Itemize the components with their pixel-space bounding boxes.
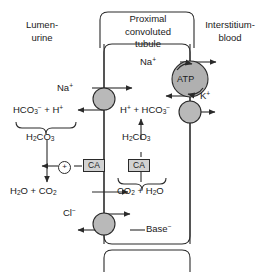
h2o-cell-o: O: [156, 185, 163, 196]
na-lumen-text: Na: [57, 82, 69, 93]
h2co3-lumen-h: H: [26, 131, 33, 142]
h2o-lumen-h: H: [10, 185, 17, 196]
h2o-cell-h: + H: [138, 185, 153, 196]
h2co3-cell-co: CO: [133, 131, 147, 142]
hco3-transporter: [179, 101, 201, 123]
interstitium-line-2: blood: [196, 33, 264, 43]
label-co2-h2o-cell: CO2 + H2O: [117, 186, 164, 197]
h2co3-lumen-sub2: 3: [51, 135, 55, 142]
label-h-hco3-cell: H+ + HCO3−: [120, 105, 170, 116]
compartment-label-tubule: Proximal convoluted tubule: [106, 14, 190, 49]
na-cell-text: Na: [140, 56, 152, 67]
label-base-cell: Base−: [146, 224, 172, 234]
co2-cell-c: CO: [117, 185, 131, 196]
label-k-blood: K+: [200, 91, 210, 101]
base-cell-charge: −: [168, 223, 172, 230]
hco3-cell-charge: −: [166, 104, 170, 111]
co2-cell-sub: 2: [131, 189, 135, 196]
diagram-canvas: Lumen- urine Proximal convoluted tubule …: [0, 0, 266, 272]
h-lumen-charge: +: [59, 104, 63, 111]
tubule-line-2: convoluted: [106, 27, 190, 37]
na-lumen-charge: +: [69, 82, 73, 89]
label-hco3-h-lumen: HCO3− + H+: [13, 105, 63, 116]
lumen-line-2: urine: [6, 33, 78, 43]
compartment-label-interstitium: Interstitium- blood: [196, 20, 264, 42]
tubule-line-3: tubule: [106, 39, 190, 49]
cl-lumen-charge: −: [72, 207, 76, 214]
h2co3-cell-h: H: [122, 131, 129, 142]
h2o-co2-lumen-mid: O + CO: [21, 185, 53, 196]
hco3-cell-text: + HCO: [133, 104, 162, 115]
cl-base-exchanger: [93, 213, 115, 235]
label-h2co3-lumen: H2CO3: [26, 132, 54, 143]
label-na-cell: Na+: [140, 57, 156, 67]
compartment-label-lumen: Lumen- urine: [6, 20, 78, 42]
interstitium-line-1: Interstitium-: [196, 20, 264, 30]
label-h2co3-cell: H2CO3: [122, 132, 150, 143]
adjacent-cell-outline: [104, 250, 190, 272]
h-cell-text: H: [120, 104, 127, 115]
lumen-line-1: Lumen-: [6, 20, 78, 30]
na-cell-charge: +: [152, 56, 156, 63]
na-h-exchanger: [93, 88, 115, 110]
cl-lumen-text: Cl: [63, 207, 72, 218]
label-h2o-co2-lumen: H2O + CO2: [10, 186, 57, 197]
h2co3-lumen-co: CO: [37, 131, 51, 142]
h-lumen-text: + H: [44, 104, 59, 115]
enzyme-ca-lumen[interactable]: CA: [83, 159, 105, 172]
atpase-label: ATP: [177, 74, 194, 84]
tubule-line-1: Proximal: [106, 14, 190, 24]
base-cell-text: Base: [146, 223, 168, 234]
hco3-lumen-text: HCO: [13, 104, 34, 115]
co2-lumen-sub: 2: [53, 189, 57, 196]
label-cl-lumen: Cl−: [63, 208, 76, 218]
activation-plus-icon: +: [58, 161, 71, 174]
h-cell-charge: +: [127, 104, 131, 111]
enzyme-ca-cell[interactable]: CA: [128, 159, 150, 172]
h2co3-cell-sub2: 3: [147, 135, 151, 142]
hco3-lumen-charge: −: [38, 104, 42, 111]
k-blood-charge: +: [206, 90, 210, 97]
label-na-lumen: Na+: [57, 83, 73, 93]
